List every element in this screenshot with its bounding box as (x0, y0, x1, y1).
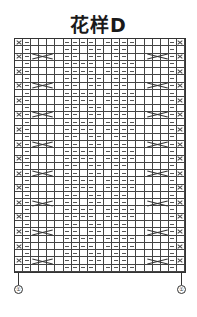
purl-cell (96, 221, 104, 228)
knit-cell (128, 75, 136, 82)
knit-cell (39, 119, 47, 126)
knit-cell (153, 90, 161, 97)
purl-cell (23, 119, 31, 126)
knit-cell (15, 134, 23, 141)
knit-cell (55, 221, 63, 228)
purl-cell (80, 68, 88, 75)
purl-cell (88, 206, 96, 213)
purl-cell (72, 134, 80, 141)
purl-cell (128, 185, 136, 192)
cross-stitch-cell (15, 243, 23, 250)
cross-stitch-cell (177, 228, 185, 235)
purl-cell (23, 163, 31, 170)
purl-cell (120, 134, 128, 141)
purl-cell (128, 206, 136, 213)
purl-cell (128, 61, 136, 68)
knit-cell (55, 170, 63, 177)
knit-cell (96, 156, 104, 163)
knit-cell (153, 236, 161, 243)
knit-cell (80, 112, 88, 119)
knit-cell (153, 243, 161, 250)
knit-cell (96, 185, 104, 192)
purl-cell (96, 170, 104, 177)
cable-cross-icon (145, 229, 170, 236)
purl-cell (169, 185, 177, 192)
cable-cross-icon (145, 258, 170, 265)
purl-cell (23, 185, 31, 192)
knit-cell (80, 46, 88, 53)
knit-cell (47, 61, 55, 68)
knit-cell (47, 163, 55, 170)
purl-cell (128, 265, 136, 272)
start-marker-left: ① (14, 273, 23, 294)
purl-cell (104, 97, 112, 104)
knit-cell (55, 192, 63, 199)
purl-cell (120, 68, 128, 75)
purl-cell (88, 265, 96, 272)
purl-cell (88, 119, 96, 126)
purl-cell (169, 75, 177, 82)
cross-stitch-cell (15, 214, 23, 221)
purl-cell (112, 236, 120, 243)
purl-cell (120, 250, 128, 257)
knit-cell (96, 148, 104, 155)
purl-cell (120, 75, 128, 82)
knit-cell (161, 206, 169, 213)
purl-cell (96, 257, 104, 264)
purl-cell (169, 46, 177, 53)
purl-cell (112, 134, 120, 141)
knit-cell (80, 192, 88, 199)
purl-cell (88, 97, 96, 104)
cross-stitch-cell (177, 214, 185, 221)
purl-cell (72, 119, 80, 126)
purl-cell (64, 39, 72, 46)
knit-cell (55, 54, 63, 61)
purl-cell (104, 148, 112, 155)
cable-cross-icon (30, 258, 55, 265)
knit-cell (15, 61, 23, 68)
knit-cell (31, 214, 39, 221)
knit-cell (104, 134, 112, 141)
cross-stitch-cell (15, 97, 23, 104)
knit-cell (177, 61, 185, 68)
knit-cell (136, 265, 144, 272)
knit-cell (153, 221, 161, 228)
purl-cell (64, 75, 72, 82)
purl-cell (104, 119, 112, 126)
knit-cell (15, 148, 23, 155)
knit-cell (136, 126, 144, 133)
knit-cell (96, 126, 104, 133)
cable-cross-icon (30, 111, 55, 118)
knit-cell (104, 75, 112, 82)
purl-cell (72, 61, 80, 68)
purl-cell (88, 39, 96, 46)
purl-cell (72, 112, 80, 119)
knit-cell (15, 236, 23, 243)
purl-cell (120, 170, 128, 177)
purl-cell (88, 185, 96, 192)
knit-cell (31, 68, 39, 75)
knit-cell (153, 68, 161, 75)
cable-cross-icon (30, 82, 55, 89)
purl-cell (112, 148, 120, 155)
knit-cell (47, 214, 55, 221)
knit-cell (161, 156, 169, 163)
purl-cell (169, 156, 177, 163)
knit-cell (55, 61, 63, 68)
knit-cell (39, 90, 47, 97)
knit-cell (177, 148, 185, 155)
purl-cell (23, 214, 31, 221)
knit-cell (177, 221, 185, 228)
purl-cell (128, 39, 136, 46)
purl-cell (88, 199, 96, 206)
knit-cell (145, 236, 153, 243)
knit-cell (39, 221, 47, 228)
purl-cell (72, 243, 80, 250)
knit-cell (145, 126, 153, 133)
cable-cross-icon (30, 200, 55, 207)
purl-cell (112, 90, 120, 97)
knit-cell (177, 119, 185, 126)
purl-cell (96, 75, 104, 82)
cable-cross-icon (145, 200, 170, 207)
purl-cell (120, 206, 128, 213)
